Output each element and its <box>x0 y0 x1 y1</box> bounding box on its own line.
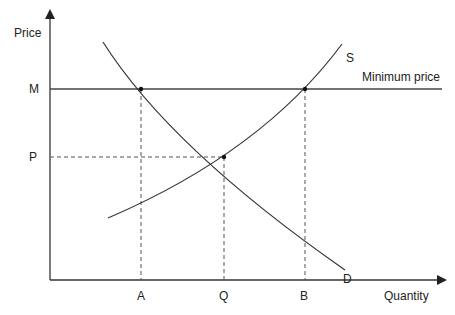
quantity-label-q: Q <box>219 289 228 303</box>
point-equilibrium <box>222 155 226 159</box>
price-label-p: P <box>29 150 37 164</box>
quantity-label-b: B <box>300 289 308 303</box>
point-supply-at-minimum-price <box>303 87 307 91</box>
minimum-price-label: Minimum price <box>362 70 440 84</box>
supply-label: S <box>346 51 354 65</box>
demand-label: D <box>343 272 352 286</box>
quantity-axis-label: Quantity <box>384 289 429 303</box>
supply-curve <box>108 44 342 218</box>
point-demand-at-minimum-price <box>139 87 143 91</box>
price-floor-diagram: Price Quantity M P A Q B Minimum price D… <box>0 0 455 315</box>
price-axis-label: Price <box>14 26 42 40</box>
quantity-label-a: A <box>137 289 145 303</box>
price-label-m: M <box>29 82 39 96</box>
